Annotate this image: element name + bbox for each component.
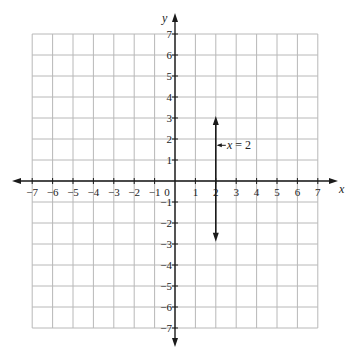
- x-axis-left-arrow-icon: [12, 178, 21, 184]
- y-tick-label: −3: [160, 238, 172, 250]
- line-down-arrow-icon: [213, 233, 219, 242]
- x-axis-right-arrow-icon: [329, 178, 338, 184]
- y-tick-label: 3: [167, 112, 173, 124]
- y-axis-down-arrow-icon: [172, 338, 178, 347]
- y-axis-label: y: [161, 11, 168, 25]
- y-tick-label: −5: [160, 280, 172, 292]
- x-axis-label: x: [338, 182, 345, 196]
- y-tick-label: 4: [167, 91, 173, 103]
- line-up-arrow-icon: [213, 116, 219, 125]
- y-tick-label: −1: [160, 196, 172, 208]
- y-axis-up-arrow-icon: [172, 13, 178, 22]
- x-tick-label: 7: [315, 186, 321, 198]
- y-tick-label: −2: [160, 217, 172, 229]
- equation-rest: = 2: [232, 138, 251, 152]
- y-tick-label: 1: [167, 154, 173, 166]
- y-tick-label: 2: [167, 133, 173, 145]
- x-tick-label: 4: [254, 186, 260, 198]
- x-tick-label: −7: [26, 186, 38, 198]
- y-tick-label: −6: [160, 301, 172, 313]
- x-tick-label: −3: [108, 186, 120, 198]
- y-tick-label: 7: [167, 28, 173, 40]
- x-tick-label: 6: [295, 186, 301, 198]
- x-tick-label: 3: [233, 186, 239, 198]
- x-tick-label: −2: [128, 186, 140, 198]
- equation-label: x = 2: [226, 138, 251, 152]
- y-tick-label: −7: [160, 322, 172, 334]
- x-tick-label: −1: [149, 186, 161, 198]
- y-tick-label: −4: [160, 259, 172, 271]
- x-tick-label: −5: [67, 186, 79, 198]
- x-tick-label: 1: [193, 186, 199, 198]
- axes: [12, 13, 338, 347]
- x-tick-label: 5: [274, 186, 280, 198]
- x-tick-label: −6: [47, 186, 59, 198]
- y-tick-label: 6: [167, 49, 173, 61]
- coordinate-plane: −7−6−5−4−3−2−101234567−7−6−5−4−3−2−11234…: [0, 0, 350, 359]
- y-tick-label: 5: [167, 70, 173, 82]
- label-pointer-arrow-icon: [217, 143, 222, 147]
- x-tick-label: −4: [88, 186, 100, 198]
